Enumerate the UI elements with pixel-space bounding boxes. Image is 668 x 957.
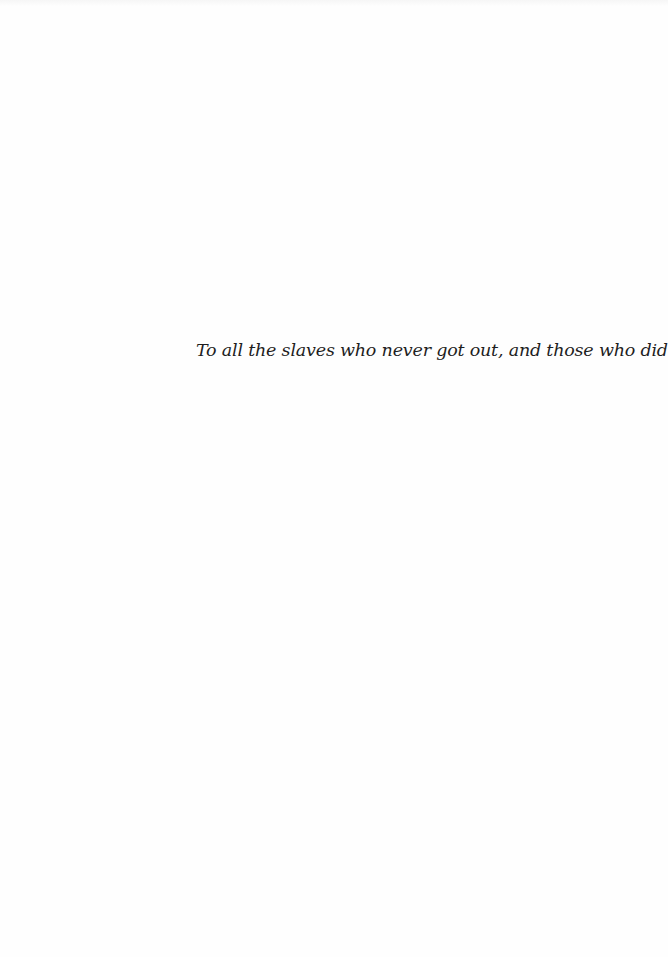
dedication-text: To all the slaves who never got out, and… [196, 340, 668, 360]
scan-artifact [0, 0, 668, 6]
book-page: To all the slaves who never got out, and… [0, 0, 668, 957]
